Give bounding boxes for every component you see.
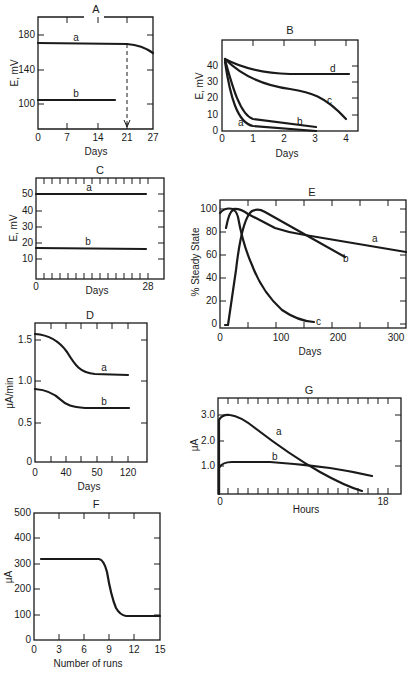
curve-label: d [330, 63, 336, 74]
y-tick: 100 [200, 203, 217, 214]
panel-d: D 1.5 1.0 0.5 0 0 40 50 120 Days μA/min … [4, 309, 147, 492]
x-axis-label: Hours [293, 504, 320, 515]
y-tick: 1.0 [201, 460, 215, 471]
panel-d-title: D [86, 309, 94, 321]
x-axis-label: Days [86, 285, 109, 296]
y-axis-label: E, mV [9, 59, 20, 87]
curve-label: b [272, 451, 278, 462]
y-tick: 1.5 [18, 334, 32, 345]
curve-a [38, 43, 153, 53]
y-axis-label: μA [3, 570, 14, 583]
x-axis-label: Days [276, 148, 299, 159]
panel-g-title: G [305, 384, 314, 396]
x-tick: 15 [154, 644, 166, 655]
x-tick: 100 [273, 332, 290, 343]
curve-label: a [372, 233, 378, 244]
curve-label: b [297, 116, 303, 127]
panel-f: F 500 400 300 200 100 0 0 3 6 9 12 15 Nu… [3, 498, 166, 669]
curve-c [226, 210, 314, 322]
x-tick: 0 [219, 133, 225, 144]
y-tick: 40 [206, 272, 218, 283]
y-tick: 40 [207, 60, 219, 71]
y-tick: 2.0 [201, 435, 215, 446]
curve-f [41, 559, 160, 616]
x-axis-label: Days [78, 481, 101, 492]
y-axis-label: μA [189, 438, 200, 451]
x-tick: 3 [56, 644, 62, 655]
minor-ticks [218, 398, 401, 494]
x-tick: 0 [32, 467, 38, 478]
y-axis-label: % Steady State [190, 227, 201, 296]
y-tick: 200 [14, 583, 31, 594]
y-tick: 300 [14, 558, 31, 569]
y-tick: 0 [212, 125, 218, 136]
panel-e-frame [220, 200, 406, 328]
x-tick: 3 [312, 133, 318, 144]
y-tick: 3.0 [201, 409, 215, 420]
y-tick: 10 [22, 253, 34, 264]
panel-e: E 100 80 60 40 20 0 0 100 200 300 Days %… [190, 186, 406, 357]
curve-label: a [101, 362, 107, 373]
curve-label: a [276, 426, 282, 437]
x-tick: 28 [142, 281, 154, 292]
y-axis-label: μA/min [4, 377, 15, 408]
curve-label: c [316, 316, 321, 327]
y-tick: 50 [22, 188, 34, 199]
x-tick: 0 [33, 281, 39, 292]
curve-label: b [85, 236, 91, 247]
panel-e-title: E [308, 186, 315, 198]
y-tick: 30 [207, 76, 219, 87]
x-axis-label: Days [85, 146, 108, 157]
panel-g-frame [218, 398, 401, 494]
y-tick: 100 [18, 98, 35, 109]
x-tick: 7 [64, 132, 70, 143]
x-tick: 0 [31, 644, 37, 655]
x-tick: 9 [106, 644, 112, 655]
y-tick: 0.5 [18, 417, 32, 428]
x-tick: 1 [250, 133, 256, 144]
panel-b: B 40 30 20 10 0 0 1 2 3 4 Days E, mV d c… [194, 24, 358, 159]
y-tick: 20 [206, 295, 218, 306]
x-axis-label: Days [299, 346, 322, 357]
y-tick: 400 [14, 532, 31, 543]
x-tick: 50 [91, 467, 103, 478]
panel-a-frame [38, 17, 153, 129]
x-tick: 12 [128, 644, 140, 655]
x-tick: 120 [120, 467, 137, 478]
curve-label: b [101, 396, 107, 407]
y-tick: 0 [26, 456, 32, 467]
curve-b [225, 210, 345, 325]
curve-label: a [86, 182, 92, 193]
panel-f-title: F [93, 498, 100, 510]
y-tick: 140 [18, 64, 35, 75]
curve-b [35, 389, 129, 408]
x-tick: 0 [35, 132, 41, 143]
curve-label: c [327, 95, 332, 106]
panel-b-title: B [286, 24, 293, 36]
curve-a [219, 415, 362, 494]
y-tick: 180 [18, 29, 35, 40]
curve-b [219, 462, 372, 494]
y-tick: 0 [211, 318, 217, 329]
x-tick: 300 [388, 332, 405, 343]
x-tick: 200 [330, 332, 347, 343]
x-tick: 4 [343, 133, 349, 144]
curve-label: a [238, 117, 244, 128]
y-tick: 20 [22, 237, 34, 248]
x-tick: 18 [377, 496, 389, 507]
x-tick: 0 [217, 496, 223, 507]
x-tick: 14 [92, 132, 104, 143]
x-tick: 2 [281, 133, 287, 144]
y-axis-label: E, mV [194, 72, 205, 100]
y-tick: 100 [14, 609, 31, 620]
panel-c-title: C [96, 164, 104, 176]
x-tick: 40 [60, 467, 72, 478]
y-tick: 1.0 [18, 375, 32, 386]
curve-label: a [73, 32, 79, 43]
y-tick: 20 [207, 92, 219, 103]
y-tick: 40 [22, 205, 34, 216]
panel-a-title: A [92, 3, 100, 15]
curve-a [35, 334, 128, 375]
x-axis-label: Number of runs [54, 658, 123, 669]
y-tick: 30 [22, 221, 34, 232]
